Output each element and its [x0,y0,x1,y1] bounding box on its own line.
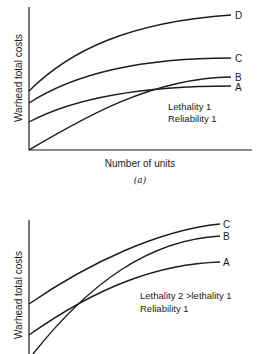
series-label-c-b: C [223,219,230,230]
annotation-reliability-b: Reliability 1 [140,303,189,314]
y-axis-label-a: Warhead total costs [13,34,24,122]
chart-b: Warhead total costs C B A Lethality 2 >l… [13,219,232,354]
annotation-reliability-a: Reliability 1 [168,113,217,124]
series-label-d-a: D [235,10,242,21]
caption-a: (a) [134,175,147,185]
x-axis-label-a: Number of units [105,158,176,169]
series-label-a-b: A [223,257,230,268]
chart-a: Warhead total costs Number of units (a) … [13,7,252,185]
annotation-lethality-a: Lethality 1 [168,101,211,112]
annotation-lethality-b: Lethality 2 >lethality 1 [140,290,232,301]
series-c-a [29,58,231,103]
figure: Warhead total costs Number of units (a) … [0,0,265,354]
series-label-b-b: B [223,231,230,242]
series-label-a-a: A [235,82,242,93]
series-label-c-a: C [235,53,242,64]
y-axis-label-b: Warhead total costs [13,251,24,339]
